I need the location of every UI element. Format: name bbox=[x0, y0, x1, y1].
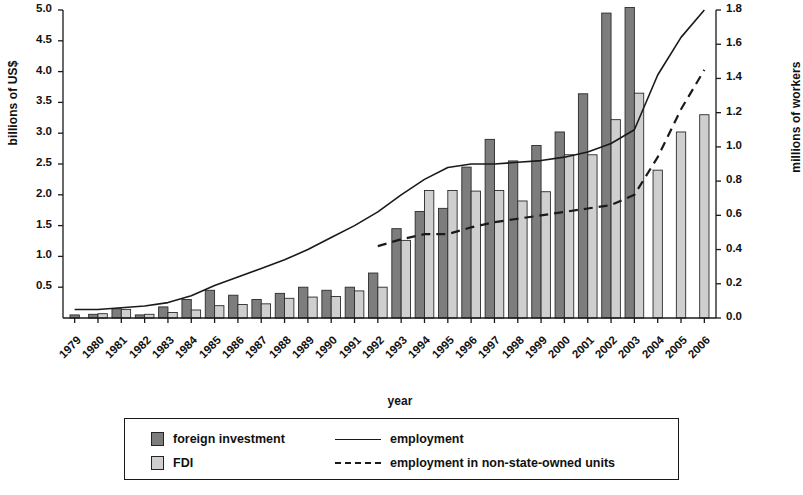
legend-item-fdi: FDI bbox=[151, 453, 193, 473]
legend-dashed-line-icon bbox=[335, 462, 381, 464]
legend-label: employment in non-state-owned units bbox=[390, 456, 615, 470]
y-axis-left-tick-label: 2.5 bbox=[18, 156, 52, 168]
y-axis-right-tick-label: 1.4 bbox=[726, 70, 760, 82]
y-axis-left-tick-label: 3.0 bbox=[18, 125, 52, 137]
y-axis-right-tick-label: 0.4 bbox=[726, 242, 760, 254]
y-axis-left-tick-label: 4.5 bbox=[18, 33, 52, 45]
chart-legend: foreign investment FDI employment employ… bbox=[124, 418, 679, 480]
y-axis-left-tick-label: 5.0 bbox=[18, 2, 52, 14]
axis-lines bbox=[58, 10, 721, 323]
y-axis-left-tick-label: 1.5 bbox=[18, 218, 52, 230]
y-axis-right-tick-label: 1.6 bbox=[726, 36, 760, 48]
y-axis-left-tick-label: 1.0 bbox=[18, 248, 52, 260]
y-axis-right-tick-label: 0.8 bbox=[726, 173, 760, 185]
y-axis-right-tick-label: 1.0 bbox=[726, 139, 760, 151]
legend-dark-square-icon bbox=[151, 432, 164, 446]
legend-item-employment: employment bbox=[335, 429, 464, 449]
y-axis-left-tick-label: 0.5 bbox=[18, 279, 52, 291]
y-axis-left-tick-label: 2.0 bbox=[18, 187, 52, 199]
legend-label: foreign investment bbox=[173, 432, 285, 446]
legend-item-foreign-investment: foreign investment bbox=[151, 429, 285, 449]
y-axis-right-tick-label: 0.6 bbox=[726, 207, 760, 219]
y-axis-right-tick-label: 0.0 bbox=[726, 310, 760, 322]
y-axis-right-tick-label: 1.2 bbox=[726, 105, 760, 117]
legend-label: employment bbox=[390, 432, 464, 446]
legend-solid-line-icon bbox=[335, 439, 381, 440]
bars-fdi bbox=[98, 93, 709, 318]
y-axis-right-tick-label: 1.8 bbox=[726, 2, 760, 14]
legend-label: FDI bbox=[173, 456, 193, 470]
y-axis-right-tick-label: 0.2 bbox=[726, 276, 760, 288]
y-axis-left-tick-label: 3.5 bbox=[18, 94, 52, 106]
legend-item-employment-non-state: employment in non-state-owned units bbox=[335, 453, 615, 473]
legend-light-square-icon bbox=[151, 456, 164, 470]
y-axis-left-tick-label: 4.0 bbox=[18, 64, 52, 76]
